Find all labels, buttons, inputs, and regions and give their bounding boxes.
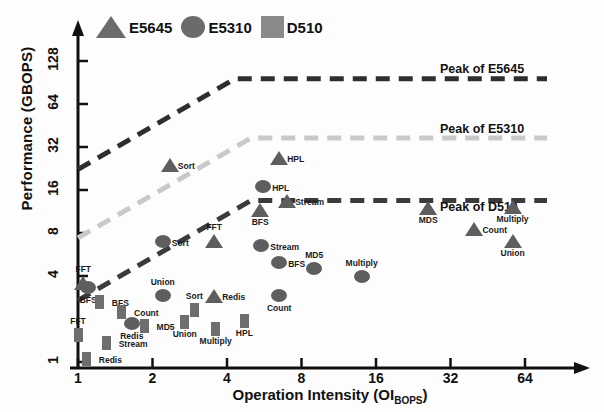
y-tick-32: 32 [45,137,61,153]
x-tick-32: 32 [443,370,459,386]
triangle-marker-icon [270,151,288,165]
legend-square-icon [261,16,284,38]
data-point-label: FFT [75,265,91,274]
data-point-d510-sort: Sort [190,303,199,317]
data-point-e5645-redis: Redis [205,289,223,303]
data-point-e5645-union: Union [504,234,522,248]
roofline-chart: 1248163264 148163264128 Peak of E5645Pea… [0,0,604,412]
data-point-e5310-sort: Sort [155,235,171,248]
data-point-label: Multiply [346,259,378,268]
data-point-d510-redis: Redis [82,352,91,366]
x-tick-16: 16 [368,370,384,386]
y-tick-1: 1 [45,356,61,364]
square-marker-icon [211,322,220,336]
circle-marker-icon [306,262,322,275]
data-point-d510-bfs: BFS [95,295,104,309]
data-point-label: Union [501,249,525,258]
data-point-e5645-bfs: BFS [251,203,269,217]
data-point-label: Stream [270,243,299,252]
chart-legend: E5645E5310D510 [96,16,323,38]
data-point-e5645-stream: Stream [278,194,296,208]
square-marker-icon [240,314,249,328]
triangle-marker-icon [205,234,223,248]
circle-marker-icon [271,289,287,302]
square-marker-icon [140,319,149,333]
data-point-label: Stream [295,198,324,207]
data-point-e5310-count: Count [271,289,287,302]
data-point-label: HPL [236,329,253,338]
data-point-e5645-sort: Sort [161,158,179,172]
triangle-marker-icon [161,158,179,172]
legend-label: E5310 [208,19,251,36]
data-point-d510-stream: Stream [102,336,111,350]
data-point-label: Count [134,309,159,318]
legend-circle-icon [181,16,205,38]
circle-marker-icon [124,317,140,330]
circle-marker-icon [155,289,171,302]
data-point-label: Union [151,278,175,287]
circle-marker-icon [253,239,269,252]
circle-marker-icon [354,270,370,283]
triangle-marker-icon [278,194,296,208]
x-tick-8: 8 [298,370,306,386]
data-point-e5310-multiply: Multiply [354,270,370,283]
circle-marker-icon [155,235,171,248]
data-point-label: BFS [252,218,269,227]
data-point-e5310-stream: Stream [253,239,269,252]
x-tick-2: 2 [149,370,157,386]
square-marker-icon [82,352,91,366]
data-point-label: Stream [119,340,148,349]
legend-item-e5645[interactable]: E5645 [96,16,172,38]
triangle-marker-icon [251,203,269,217]
data-point-d510-count: Count [117,305,126,319]
square-marker-icon [117,305,126,319]
y-tick-4: 4 [45,270,61,278]
data-point-d510-multiply: Multiply [211,322,220,336]
data-point-d510-md5: MD5 [140,319,149,333]
triangle-marker-icon [205,289,223,303]
data-point-label: HPL [272,184,289,193]
triangle-marker-icon [504,200,522,214]
circle-marker-icon [271,256,287,269]
y-tick-64: 64 [45,94,61,110]
y-tick-8: 8 [45,227,61,235]
data-point-label: MDS [419,216,438,225]
data-point-label: Multiply [200,337,232,346]
data-point-label: Sort [186,292,203,301]
data-point-label: Redis [99,356,122,365]
data-point-label: Redis [222,293,245,302]
x-tick-64: 64 [517,370,533,386]
circle-marker-icon [255,180,271,193]
legend-item-d510[interactable]: D510 [261,16,323,38]
data-point-d510-union: Union [180,315,189,329]
x-tick-1: 1 [74,370,82,386]
data-point-e5645-multiply: Multiply [504,200,522,214]
data-point-e5645-hpl: HPL [270,151,288,165]
data-point-e5645-mds: MDS [419,201,437,215]
data-point-d510-hpl: HPL [240,314,249,328]
square-marker-icon [74,328,83,342]
square-marker-icon [95,295,104,309]
data-point-label: MD5 [305,251,323,260]
x-axis-title-end: ) [423,386,428,403]
circle-marker-icon [80,281,96,294]
data-point-label: Sort [172,239,189,248]
x-tick-4: 4 [223,370,231,386]
data-point-e5310-bfs: BFS [80,281,96,294]
data-point-label: Sort [178,162,195,171]
data-point-e5310-hpl: HPL [255,180,271,193]
data-point-e5310-union: Union [155,289,171,302]
square-marker-icon [190,303,199,317]
x-axis-title: Operation Intensity (OIBOPS) [120,386,540,406]
y-tick-128: 128 [45,47,61,70]
data-point-e5310-redis: Redis [124,317,140,330]
x-axis-title-main: Operation Intensity (OI [232,386,394,403]
peak-label-peak-of-e5645: Peak of E5645 [440,62,524,76]
legend-item-e5310[interactable]: E5310 [181,16,251,38]
y-axis-title: Performance (GBOPS) [18,19,35,239]
data-point-e5310-md5: MD5 [306,262,322,275]
x-axis-title-sub: BOPS [394,395,422,406]
data-point-e5645-fft: FFT [205,234,223,248]
data-point-e5310-bfs: BFS [271,256,287,269]
legend-label: E5645 [129,19,172,36]
